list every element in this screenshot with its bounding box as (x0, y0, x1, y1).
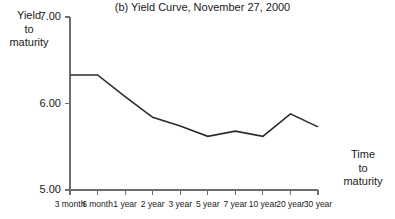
x-tick-label: 3 year (168, 199, 192, 209)
y-tick-marks (65, 17, 70, 190)
x-tick-label: 6 month (82, 199, 113, 209)
yield-curve-line (70, 75, 318, 136)
plot-area (0, 0, 395, 219)
x-tick-label: 30 year (304, 199, 332, 209)
x-tick-label: 2 year (141, 199, 165, 209)
x-tick-label: 5 year (196, 199, 220, 209)
x-tick-label: 3 month (55, 199, 86, 209)
x-tick-label: 10 year (249, 199, 277, 209)
x-tick-label: 7 year (224, 199, 248, 209)
x-tick-label: 20 year (276, 199, 304, 209)
x-tick-marks (70, 190, 318, 195)
x-tick-label: 1 year (113, 199, 137, 209)
yield-curve-figure: (b) Yield Curve, November 27, 2000 Yield… (0, 0, 395, 219)
